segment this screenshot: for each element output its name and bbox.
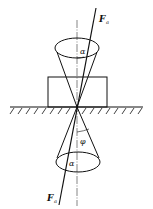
block	[48, 77, 107, 107]
lower-friction-cone	[56, 107, 100, 172]
force-label-top: F	[98, 14, 106, 24]
friction-cone-diagram: F a F a α α φ	[0, 0, 153, 209]
alpha-label-top: α	[80, 47, 86, 56]
force-label-top-subscript: a	[106, 19, 109, 25]
force-label-bottom-subscript: a	[54, 198, 57, 204]
alpha-label-bottom: α	[69, 159, 75, 168]
force-label-bottom: F	[46, 193, 54, 203]
phi-label: φ	[80, 137, 86, 146]
